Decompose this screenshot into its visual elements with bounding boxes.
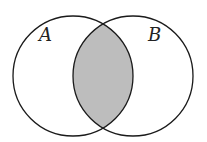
label-b: B — [147, 24, 161, 45]
venn-diagram: A B — [0, 0, 207, 142]
label-a: A — [37, 24, 52, 45]
